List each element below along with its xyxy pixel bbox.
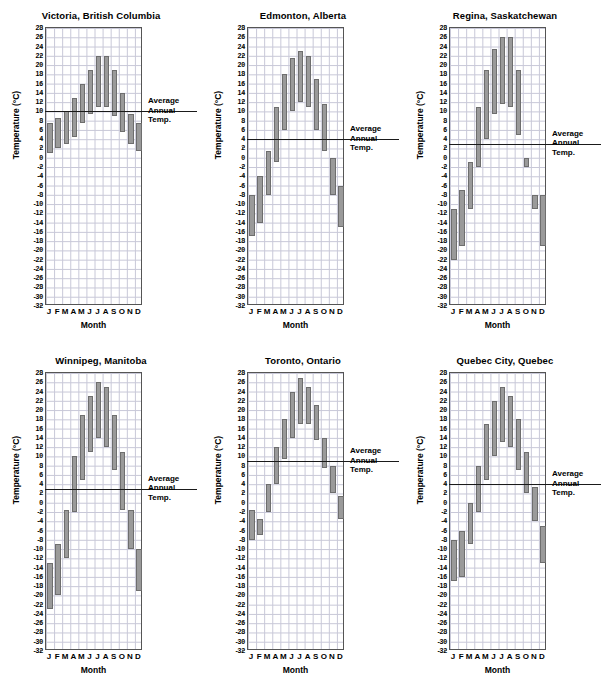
- y-tick-label: -24: [203, 609, 245, 616]
- y-tick-label: 6: [405, 125, 447, 132]
- y-tick-mark: [242, 567, 245, 568]
- y-tick-label: 22: [1, 396, 43, 403]
- y-tick-mark: [40, 249, 43, 250]
- annotation-line: Annual: [552, 138, 604, 148]
- y-tick-label: 18: [203, 415, 245, 422]
- y-tick-mark: [242, 585, 245, 586]
- y-tick-mark: [242, 381, 245, 382]
- y-tick-mark: [444, 650, 447, 651]
- y-tick-mark: [40, 240, 43, 241]
- y-tick-mark: [40, 372, 43, 373]
- y-tick-mark: [444, 557, 447, 558]
- y-tick-mark: [444, 613, 447, 614]
- y-tick-label: -26: [1, 274, 43, 281]
- y-tick-label: -30: [405, 637, 447, 644]
- y-tick-label: 28: [1, 24, 43, 31]
- y-tick-label: 4: [1, 480, 43, 487]
- y-tick-label: 8: [203, 116, 245, 123]
- y-tick-mark: [444, 138, 447, 139]
- y-tick-mark: [444, 520, 447, 521]
- y-tick-mark: [40, 446, 43, 447]
- y-tick-mark: [444, 511, 447, 512]
- y-tick-label: 8: [405, 116, 447, 123]
- y-tick-mark: [242, 502, 245, 503]
- y-tick-mark: [444, 502, 447, 503]
- y-tick-mark: [40, 631, 43, 632]
- y-tick-label: 12: [203, 98, 245, 105]
- y-axis-ticks: 2826242220181614121086420-2-4-6-8-10-12-…: [0, 372, 43, 650]
- y-tick-label: -2: [203, 508, 245, 515]
- y-tick-mark: [40, 157, 43, 158]
- y-tick-label: -32: [1, 647, 43, 654]
- y-tick-label: -20: [405, 591, 447, 598]
- annotation-line: Average: [350, 124, 402, 134]
- chart-panel: Winnipeg, ManitobaTemperature (°C)282624…: [0, 345, 202, 691]
- annotation-line: Average: [148, 474, 200, 484]
- y-tick-mark: [40, 474, 43, 475]
- x-axis-ticks: JFMAMJJASOND: [449, 652, 546, 664]
- y-tick-mark: [444, 446, 447, 447]
- y-tick-mark: [40, 185, 43, 186]
- y-tick-mark: [444, 455, 447, 456]
- y-tick-mark: [444, 120, 447, 121]
- y-tick-mark: [40, 539, 43, 540]
- y-tick-mark: [242, 492, 245, 493]
- y-tick-label: -8: [405, 190, 447, 197]
- y-tick-label: 2: [203, 144, 245, 151]
- y-tick-mark: [40, 110, 43, 111]
- y-tick-mark: [444, 391, 447, 392]
- y-tick-mark: [242, 520, 245, 521]
- y-tick-mark: [40, 268, 43, 269]
- y-tick-label: -22: [405, 600, 447, 607]
- y-tick-mark: [40, 483, 43, 484]
- y-axis-ticks: 2826242220181614121086420-2-4-6-8-10-12-…: [0, 27, 43, 305]
- y-tick-label: -20: [203, 246, 245, 253]
- y-tick-label: -12: [203, 209, 245, 216]
- chart-panel: Regina, SaskatchewanTemperature (°C)2826…: [404, 0, 606, 345]
- y-tick-mark: [444, 166, 447, 167]
- y-tick-mark: [40, 138, 43, 139]
- y-axis-ticks: 2826242220181614121086420-2-4-6-8-10-12-…: [404, 372, 447, 650]
- x-axis-label: Month: [247, 665, 344, 675]
- y-tick-label: 2: [1, 144, 43, 151]
- y-tick-label: -2: [1, 508, 43, 515]
- y-tick-label: -30: [1, 637, 43, 644]
- y-tick-mark: [242, 613, 245, 614]
- y-tick-label: 18: [1, 415, 43, 422]
- annotation-line: Annual: [148, 106, 200, 116]
- y-tick-label: -20: [405, 246, 447, 253]
- x-axis-ticks: JFMAMJJASOND: [45, 307, 142, 319]
- y-tick-label: 22: [405, 396, 447, 403]
- y-tick-mark: [242, 231, 245, 232]
- y-tick-label: 2: [405, 144, 447, 151]
- y-tick-mark: [444, 409, 447, 410]
- y-tick-label: -32: [405, 647, 447, 654]
- y-tick-mark: [444, 548, 447, 549]
- y-tick-label: -28: [1, 283, 43, 290]
- y-tick-label: 14: [203, 433, 245, 440]
- y-tick-mark: [444, 249, 447, 250]
- y-tick-mark: [40, 286, 43, 287]
- y-tick-label: -6: [203, 181, 245, 188]
- y-tick-label: 12: [203, 443, 245, 450]
- x-tick-label: D: [536, 307, 548, 317]
- y-tick-label: -18: [405, 237, 447, 244]
- chart-title: Winnipeg, Manitoba: [0, 355, 202, 366]
- y-tick-mark: [40, 465, 43, 466]
- y-tick-mark: [242, 240, 245, 241]
- chart-title: Regina, Saskatchewan: [404, 10, 606, 21]
- y-tick-label: -20: [203, 591, 245, 598]
- y-axis-ticks: 2826242220181614121086420-2-4-6-8-10-12-…: [404, 27, 447, 305]
- y-tick-mark: [40, 222, 43, 223]
- y-tick-label: 12: [405, 98, 447, 105]
- y-tick-mark: [40, 64, 43, 65]
- y-tick-label: -2: [203, 163, 245, 170]
- y-tick-mark: [242, 259, 245, 260]
- x-axis-ticks: JFMAMJJASOND: [449, 307, 546, 319]
- y-tick-label: -22: [405, 255, 447, 262]
- y-tick-mark: [40, 381, 43, 382]
- y-tick-label: 26: [1, 378, 43, 385]
- y-tick-mark: [40, 622, 43, 623]
- y-tick-mark: [242, 92, 245, 93]
- y-tick-label: 4: [405, 135, 447, 142]
